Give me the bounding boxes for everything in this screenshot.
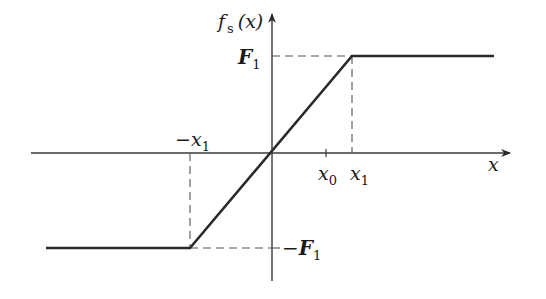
label-F1-bottom: −F1 xyxy=(282,236,321,263)
y-axis-label: fs(x) xyxy=(216,10,263,36)
label-neg-x1: −x1 xyxy=(175,128,210,154)
label-F1-top: F1 xyxy=(237,45,260,72)
x-axis-label: x xyxy=(488,153,499,175)
saturation-curve xyxy=(46,56,494,248)
label-x1: x1 xyxy=(350,162,369,188)
label-x0: x0 xyxy=(318,162,337,188)
saturation-function-diagram: fs(x) F1 −F1 −x1 x0 x1 x xyxy=(0,0,546,299)
